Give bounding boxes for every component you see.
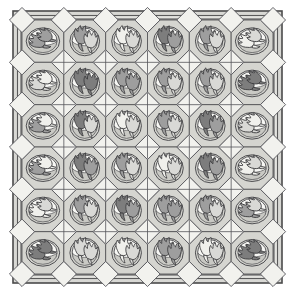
quilt-pattern-illustration: [0, 0, 295, 295]
artwork-canvas: [0, 0, 295, 295]
lattice-grid-layer: [9, 7, 285, 286]
